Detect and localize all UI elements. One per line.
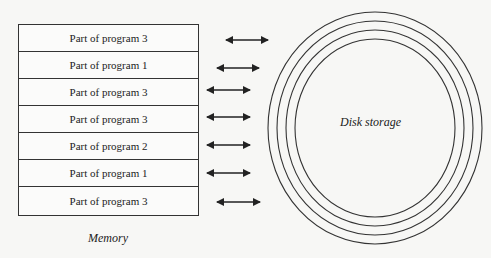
disk-storage-label: Disk storage [340,115,401,130]
transfer-arrows [207,40,268,202]
diagram-graphics [0,0,491,258]
